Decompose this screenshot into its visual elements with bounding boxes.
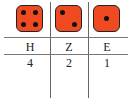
die-two-icon <box>55 5 82 32</box>
value-e: 1 <box>88 56 126 71</box>
die-one-icon <box>93 5 120 32</box>
header-e: E <box>88 40 126 55</box>
value-h: 4 <box>11 56 49 71</box>
dice-separator-line <box>4 37 128 38</box>
header-h: H <box>11 40 49 55</box>
header-z: Z <box>50 40 88 55</box>
die-four-icon <box>16 5 43 32</box>
value-z: 2 <box>50 56 88 71</box>
